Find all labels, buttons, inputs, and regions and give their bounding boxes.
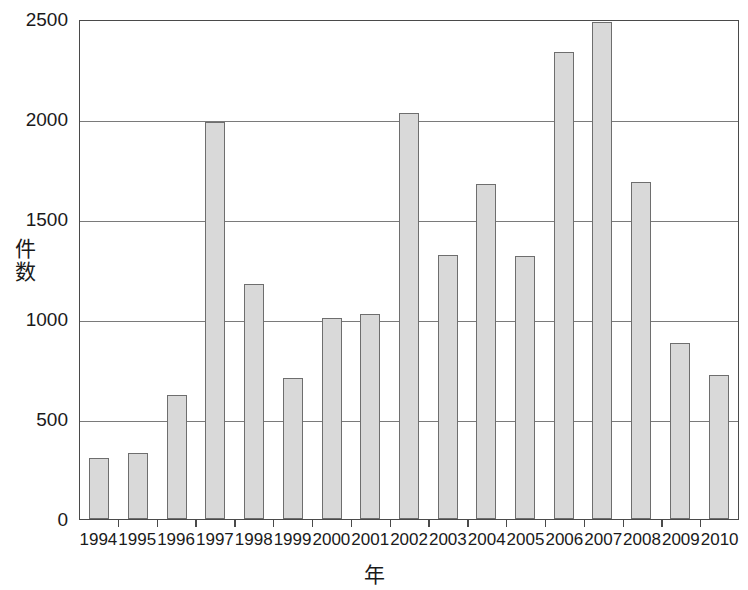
bar-2001[interactable] — [360, 314, 380, 519]
y-tick-label-2500: 2500 — [26, 9, 68, 31]
bar-slot — [544, 21, 583, 519]
bar-2009[interactable] — [670, 343, 690, 519]
bar-1995[interactable] — [128, 453, 148, 519]
x-tick-label-2002: 2002 — [390, 530, 429, 550]
plot-area — [79, 20, 739, 520]
bar-2010[interactable] — [709, 375, 729, 519]
x-tick-label-1999: 1999 — [273, 530, 312, 550]
bar-2007[interactable] — [592, 22, 612, 519]
bar-slot — [583, 21, 622, 519]
x-tick-label-2005: 2005 — [506, 530, 545, 550]
x-axis-ticks — [79, 520, 739, 528]
x-tick-label-2000: 2000 — [312, 530, 351, 550]
x-tick-mark — [273, 520, 274, 527]
y-tick-label-0: 0 — [57, 509, 68, 531]
bar-2008[interactable] — [631, 182, 651, 519]
bar-slot — [312, 21, 351, 519]
x-tick-mark — [700, 520, 701, 527]
y-tick-label-500: 500 — [36, 409, 68, 431]
bar-slot — [157, 21, 196, 519]
x-tick-mark — [661, 520, 662, 527]
bar-2004[interactable] — [476, 184, 496, 519]
y-tick-label-1500: 1500 — [26, 209, 68, 231]
x-axis-tick-labels: 1994199519961997199819992000200120022003… — [79, 530, 739, 550]
y-tick-label-2000: 2000 — [26, 109, 68, 131]
x-tick-mark — [428, 520, 429, 527]
bar-series — [80, 21, 738, 519]
bar-chart: 件 数 2500 2000 1500 1000 500 0 1994199519… — [0, 0, 748, 590]
x-tick-mark — [623, 520, 624, 527]
x-tick-label-2003: 2003 — [428, 530, 467, 550]
bar-2005[interactable] — [515, 256, 535, 519]
x-tick-label-1996: 1996 — [157, 530, 196, 550]
x-tick-mark — [195, 520, 196, 527]
x-tick-mark — [545, 520, 546, 527]
bar-slot — [699, 21, 738, 519]
x-tick-mark — [234, 520, 235, 527]
x-tick-label-1998: 1998 — [234, 530, 273, 550]
x-tick-label-2001: 2001 — [351, 530, 390, 550]
x-tick-mark — [351, 520, 352, 527]
bar-slot — [390, 21, 429, 519]
x-tick-label-1994: 1994 — [79, 530, 118, 550]
bar-slot — [506, 21, 545, 519]
x-tick-label-2009: 2009 — [661, 530, 700, 550]
bar-1999[interactable] — [283, 378, 303, 519]
bar-slot — [467, 21, 506, 519]
bar-1997[interactable] — [205, 122, 225, 519]
bar-2006[interactable] — [554, 52, 574, 519]
bar-2002[interactable] — [399, 113, 419, 519]
bar-slot — [119, 21, 158, 519]
bar-2000[interactable] — [322, 318, 342, 519]
bar-2003[interactable] — [438, 255, 458, 519]
bar-1996[interactable] — [167, 395, 187, 519]
bar-slot — [622, 21, 661, 519]
bar-1994[interactable] — [89, 458, 109, 519]
x-tick-mark — [506, 520, 507, 527]
bar-1998[interactable] — [244, 284, 264, 519]
bar-slot — [80, 21, 119, 519]
x-tick-mark — [157, 520, 158, 527]
x-axis-title: 年 — [0, 558, 748, 588]
x-tick-mark — [312, 520, 313, 527]
x-tick-label-2008: 2008 — [623, 530, 662, 550]
bar-slot — [661, 21, 700, 519]
y-tick-label-1000: 1000 — [26, 309, 68, 331]
bar-slot — [235, 21, 274, 519]
x-tick-label-2004: 2004 — [467, 530, 506, 550]
x-tick-label-2010: 2010 — [700, 530, 739, 550]
x-tick-label-2006: 2006 — [545, 530, 584, 550]
x-tick-label-2007: 2007 — [584, 530, 623, 550]
bar-slot — [351, 21, 390, 519]
bar-slot — [428, 21, 467, 519]
x-tick-label-1995: 1995 — [118, 530, 157, 550]
x-tick-label-1997: 1997 — [195, 530, 234, 550]
x-tick-mark — [118, 520, 119, 527]
bar-slot — [196, 21, 235, 519]
x-tick-mark — [467, 520, 468, 527]
x-tick-mark — [390, 520, 391, 527]
x-tick-mark — [584, 520, 585, 527]
bar-slot — [274, 21, 313, 519]
y-axis-tick-labels: 2500 2000 1500 1000 500 0 — [0, 0, 73, 590]
